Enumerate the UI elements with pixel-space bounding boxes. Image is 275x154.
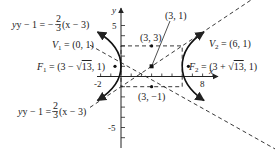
vertex-2-label: V2 = (6, 1)	[209, 38, 251, 51]
asymptote-upper-equation: yy − 1 = − 2 3 (x − 3)	[11, 13, 89, 33]
point-3-3	[150, 44, 153, 47]
y-tick-label-neg5: -5	[108, 123, 116, 133]
center-label: (3, 1)	[165, 10, 187, 22]
y-axis-label: y	[111, 5, 116, 15]
point-3-3-label: (3, 3)	[140, 32, 162, 44]
focus-1-point	[113, 65, 116, 68]
y-ticks	[121, 26, 125, 138]
vertex-1-label: V1 = (0, 1)	[52, 39, 94, 52]
x-tick-label-8: 8	[200, 79, 205, 89]
point-3-neg1-label: (3, −1)	[138, 91, 165, 103]
center-leader-line	[152, 21, 170, 66]
point-3-neg1	[150, 85, 153, 88]
hyperbola-diagram: x y 5 -5 -2 8 (3, 1) (3, 3) (3, −1) V1 =…	[0, 0, 275, 154]
y-tick-label-5: 5	[112, 21, 117, 31]
focus-2-label: F2 = (3 + √13, 1)	[188, 61, 257, 74]
center-point	[150, 64, 154, 68]
asymptote-lower-equation: yy − 1 = 2 3 (x − 3)	[17, 100, 86, 120]
x-tick-label-neg2: -2	[94, 79, 102, 89]
svg-text:yy − 1 =: yy − 1 =	[17, 106, 52, 117]
svg-text:yy − 1 = −: yy − 1 = −	[11, 19, 54, 30]
focus-1-label: F1 = (3 − √13, 1)	[36, 61, 105, 74]
svg-text:3: 3	[53, 109, 58, 120]
svg-text:(x − 3): (x − 3)	[62, 19, 89, 31]
svg-text:(x − 3): (x − 3)	[59, 106, 86, 118]
svg-text:3: 3	[56, 22, 61, 33]
